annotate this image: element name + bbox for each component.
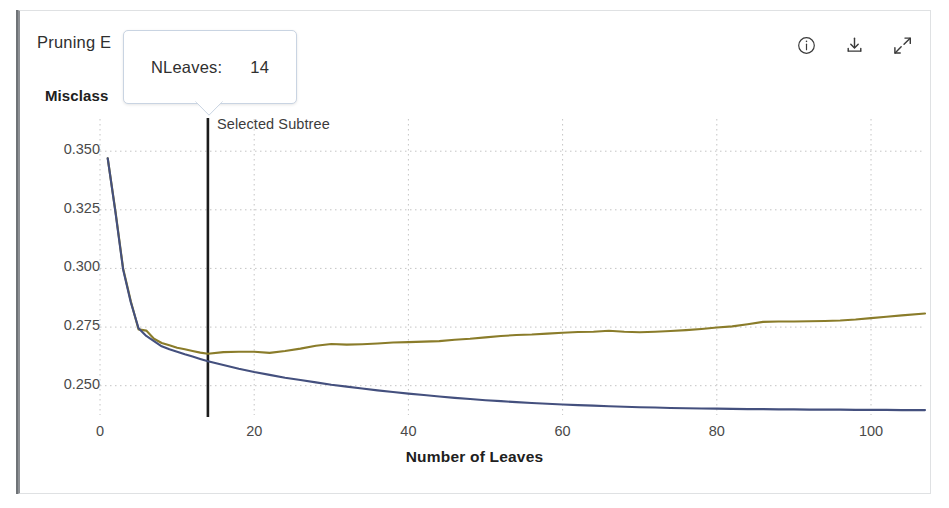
nleaves-tooltip[interactable]: NLeaves: 14 xyxy=(123,30,297,104)
x-tick-label: 60 xyxy=(533,423,593,439)
selected-subtree-label: Selected Subtree xyxy=(217,116,330,132)
x-tick-label: 100 xyxy=(841,423,901,439)
x-tick-label: 40 xyxy=(378,423,438,439)
tooltip-value: 14 xyxy=(250,58,269,77)
expand-icon[interactable] xyxy=(891,34,913,56)
info-icon[interactable] xyxy=(795,34,817,56)
x-axis-title: Number of Leaves xyxy=(0,448,949,466)
y-axis-title: Misclass xyxy=(45,87,108,104)
tooltip-row: NLeaves: 14 xyxy=(151,58,269,77)
tooltip-pointer xyxy=(195,101,223,117)
page-title: Pruning E xyxy=(37,33,111,52)
x-tick-label: 0 xyxy=(70,423,130,439)
chart-screenshot: 0.3500.3250.3000.2750.250 020406080100 P… xyxy=(0,0,949,508)
tooltip-label: NLeaves: xyxy=(151,58,222,77)
x-tick-label: 20 xyxy=(224,423,284,439)
chart-toolbar xyxy=(795,34,913,56)
x-tick-label: 80 xyxy=(687,423,747,439)
download-icon[interactable] xyxy=(843,34,865,56)
